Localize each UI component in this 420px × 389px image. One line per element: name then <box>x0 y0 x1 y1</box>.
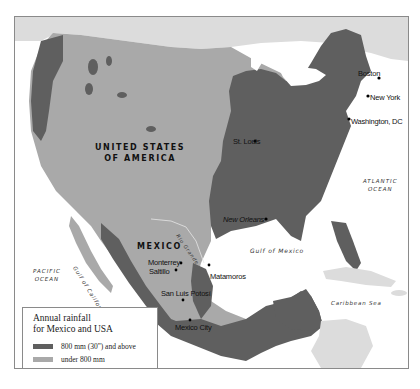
country-label-usa: UNITED STATES OF AMERICA <box>95 142 185 164</box>
city-dot-saltillo <box>175 269 178 272</box>
florida <box>331 221 361 271</box>
legend-swatch-high <box>33 344 53 349</box>
city-label-mexico-city: Mexico City <box>175 323 212 332</box>
pacific-line1: PACIFIC <box>33 267 61 275</box>
legend-title-line2: for Mexico and USA <box>33 324 113 335</box>
city-label-boston: Boston <box>358 69 380 78</box>
legend-title: Annual rainfall for Mexico and USA <box>33 313 113 335</box>
pacific-line2: OCEAN <box>33 275 61 283</box>
map-frame: UNITED STATES OF AMERICA MEXICO Boston N… <box>14 16 409 369</box>
city-dot-new-orleans <box>264 217 267 220</box>
legend-label-high: 800 mm (30") and above <box>61 342 136 351</box>
city-label-st-louis: St. Louis <box>233 137 260 146</box>
city-label-new-york: New York <box>370 93 400 102</box>
atlantic-line2: OCEAN <box>363 185 398 193</box>
rockies-patch <box>146 126 156 132</box>
rockies-patch <box>85 83 93 95</box>
hispaniola <box>391 290 407 296</box>
country-label-mexico: MEXICO <box>137 241 182 252</box>
city-dot-mexico-city <box>189 319 192 322</box>
ocean-label-pacific: PACIFIC OCEAN <box>33 267 61 283</box>
legend-item-high: 800 mm (30") and above <box>33 342 136 351</box>
rockies-patch <box>106 56 112 66</box>
city-label-matamoros: Matamoros <box>210 272 246 281</box>
city-label-saltillo: Saltillo <box>149 267 170 276</box>
city-dot-san-luis-potosi <box>182 299 185 302</box>
city-dot-monterrey <box>180 262 183 265</box>
rockies-patch <box>117 92 127 98</box>
legend-swatch-low <box>33 357 53 362</box>
city-label-san-luis-potosi: San Luis Potosí <box>161 289 211 298</box>
cuba <box>323 267 396 287</box>
usa-line1: UNITED STATES <box>95 142 185 153</box>
city-label-monterrey: Monterrey <box>148 258 180 267</box>
water-label-caribbean-sea: Caribbean Sea <box>331 300 382 306</box>
usa-line2: OF AMERICA <box>95 153 185 164</box>
rockies-patch <box>88 59 98 75</box>
map-legend: Annual rainfall for Mexico and USA 800 m… <box>22 307 158 369</box>
water-label-gulf-of-mexico: Gulf of Mexico <box>250 247 304 254</box>
ocean-label-atlantic: ATLANTIC OCEAN <box>363 177 398 193</box>
city-label-washington: Washington, DC <box>351 117 403 126</box>
legend-item-low: under 800 mm <box>33 355 105 364</box>
legend-label-low: under 800 mm <box>61 355 105 364</box>
city-label-new-orleans: New Orleans <box>223 215 264 224</box>
atlantic-line1: ATLANTIC <box>363 177 398 185</box>
legend-title-line1: Annual rainfall <box>33 313 113 324</box>
city-dot-matamoros <box>208 264 211 267</box>
central-america <box>311 319 373 368</box>
